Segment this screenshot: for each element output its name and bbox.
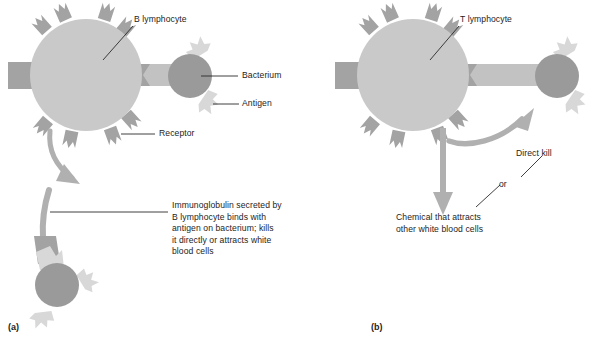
- label-direct-kill: Direct kill: [516, 148, 552, 160]
- panel-a-artwork: [8, 1, 239, 330]
- label-receptor: Receptor: [159, 128, 195, 140]
- panel-b-artwork: [335, 1, 590, 215]
- bacterium-cell-bound: [35, 263, 79, 307]
- immunoglobulin-stalk: [43, 190, 49, 238]
- label-t-lymphocyte: T lymphocyte: [460, 14, 512, 26]
- panel-label-b: (b): [371, 322, 383, 332]
- b-lymphocyte-cell: [30, 19, 142, 131]
- caption-chemical-attractant: Chemical that attracts other white blood…: [396, 212, 483, 235]
- bacterium-cell: [535, 54, 579, 98]
- t-lymphocyte-cell: [357, 19, 469, 131]
- panel-label-a: (a): [8, 322, 19, 332]
- label-b-lymphocyte: B lymphocyte: [134, 14, 187, 26]
- label-bacterium: Bacterium: [242, 70, 281, 82]
- curved-arrow-icon: [449, 108, 534, 144]
- diagram-artwork: [0, 0, 592, 346]
- figure-canvas: B lymphocyte Bacterium Antigen Receptor …: [0, 0, 592, 346]
- caption-immunoglobulin: Immunoglobulin secreted by B lymphocyte …: [172, 200, 282, 258]
- label-or: or: [499, 179, 507, 191]
- label-antigen: Antigen: [242, 98, 272, 110]
